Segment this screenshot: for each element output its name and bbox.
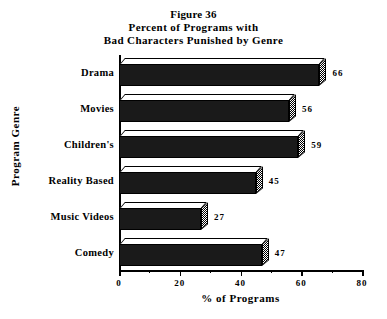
bar-side-face-music-videos	[201, 202, 208, 230]
category-label-childrens: Children's	[64, 139, 114, 150]
chart-title-line-1: Figure 36	[0, 8, 387, 21]
x-tick-label-40: 40	[235, 278, 246, 288]
bar-side-face-reality-based	[256, 166, 263, 194]
x-tick-label-80: 80	[357, 278, 368, 288]
x-tick-20	[180, 270, 182, 276]
bar-side-face-movies	[289, 94, 296, 122]
x-tick-minor-30	[210, 270, 211, 273]
bar-value-label-comedy: 47	[275, 248, 286, 258]
bar-front-face-childrens	[119, 136, 298, 158]
category-label-movies: Movies	[80, 103, 114, 114]
x-tick-40	[241, 270, 243, 276]
bar-value-label-movies: 56	[302, 104, 313, 114]
bar-comedy	[119, 238, 269, 267]
bar-side-face-childrens	[298, 130, 305, 158]
x-tick-minor-50	[271, 270, 272, 273]
bar-music-videos	[119, 202, 208, 231]
bar-value-label-reality-based: 45	[269, 176, 280, 186]
category-label-comedy: Comedy	[75, 247, 114, 258]
bar-front-face-drama	[119, 64, 319, 86]
x-axis-title: % of Programs	[119, 292, 362, 304]
x-tick-80	[362, 270, 364, 276]
bar-childrens	[119, 130, 305, 159]
category-label-reality-based: Reality Based	[49, 175, 114, 186]
x-tick-minor-10	[149, 270, 150, 273]
bar-value-label-childrens: 59	[311, 140, 322, 150]
chart-title-line-2: Percent of Programs with	[0, 21, 387, 34]
figure-36-bar-chart: Figure 36 Percent of Programs with Bad C…	[0, 0, 387, 319]
bar-side-face-comedy	[262, 238, 269, 266]
y-axis-title: Program Genre	[9, 81, 21, 211]
category-label-music-videos: Music Videos	[51, 211, 114, 222]
bar-movies	[119, 94, 296, 123]
bar-front-face-reality-based	[119, 172, 256, 194]
bar-value-label-music-videos: 27	[214, 212, 225, 222]
x-tick-minor-70	[332, 270, 333, 273]
bar-front-face-music-videos	[119, 208, 201, 230]
bar-drama	[119, 58, 326, 87]
chart-title-line-3: Bad Characters Punished by Genre	[0, 34, 387, 47]
bar-front-face-movies	[119, 100, 289, 122]
plot-area: 020406080 665659452747	[119, 55, 362, 270]
x-tick-label-20: 20	[174, 278, 185, 288]
x-tick-label-0: 0	[116, 278, 122, 288]
x-tick-label-60: 60	[296, 278, 307, 288]
bar-value-label-drama: 66	[332, 68, 343, 78]
x-tick-0	[119, 270, 121, 276]
x-tick-60	[301, 270, 303, 276]
category-label-drama: Drama	[81, 67, 114, 78]
chart-title: Figure 36 Percent of Programs with Bad C…	[0, 8, 387, 47]
bar-front-face-comedy	[119, 244, 262, 266]
bar-reality-based	[119, 166, 263, 195]
bar-side-face-drama	[319, 59, 326, 87]
